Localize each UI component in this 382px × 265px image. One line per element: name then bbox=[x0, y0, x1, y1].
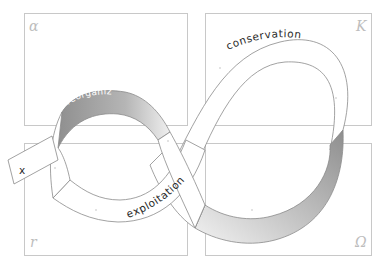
flow-dot bbox=[251, 209, 253, 211]
exit-label: x bbox=[19, 164, 26, 176]
adaptive-cycle-diagram: α K r Ω x conservation bbox=[0, 0, 382, 265]
flow-dot bbox=[95, 209, 97, 211]
flow-dot bbox=[54, 167, 56, 169]
flow-dot bbox=[167, 140, 169, 142]
omega-symbol: Ω bbox=[354, 234, 367, 250]
K-symbol: K bbox=[355, 18, 368, 34]
flow-dot bbox=[219, 67, 221, 69]
flow-dot bbox=[335, 97, 337, 99]
alpha-symbol: α bbox=[29, 18, 39, 34]
